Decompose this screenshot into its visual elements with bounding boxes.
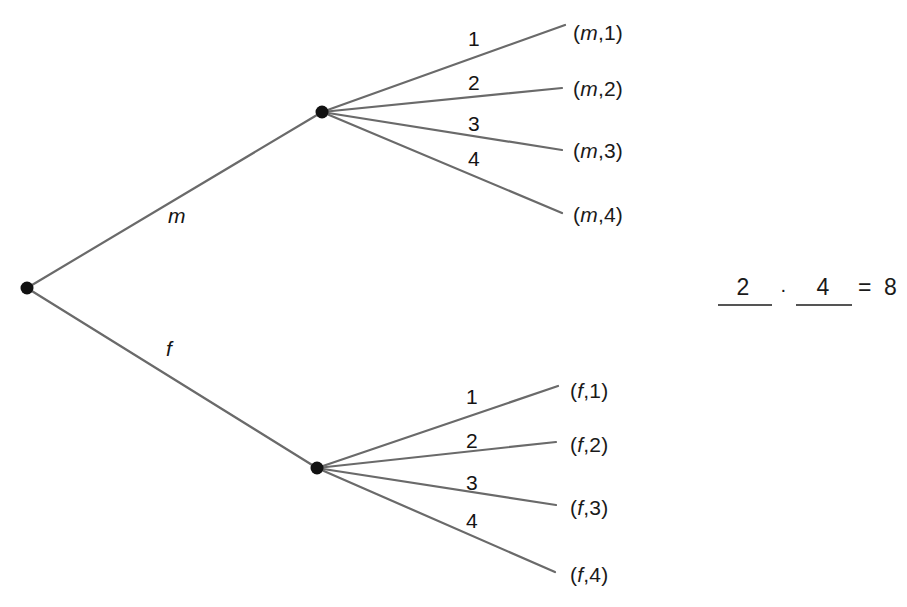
branch-label-m: m — [168, 205, 186, 226]
equation-factor-1: 2 — [720, 274, 766, 301]
root-node — [21, 282, 34, 295]
branch-label-m-4: 4 — [468, 148, 480, 169]
leaf-label-f1: (f,1) — [570, 380, 608, 401]
node-m — [316, 106, 329, 119]
multiplication-dot-icon: · — [780, 278, 787, 301]
node-f — [311, 462, 324, 475]
equation-factor-2: 4 — [800, 274, 846, 301]
leaf-label-m1: (m,1) — [573, 22, 623, 43]
leaf-label-m4: (m,4) — [573, 204, 623, 225]
branch-label-f: f — [166, 338, 172, 359]
branch-label-m-2: 2 — [468, 72, 480, 93]
edge-root-to-f — [27, 288, 317, 468]
edge-f-to-f3 — [317, 468, 556, 505]
leaf-label-f2: (f,2) — [570, 434, 608, 455]
branch-label-m-1: 1 — [468, 28, 480, 49]
equation-blank-rule-2 — [796, 304, 852, 306]
equation-equals-sign: = — [858, 274, 871, 301]
leaf-label-f3: (f,3) — [570, 497, 608, 518]
branch-label-f-4: 4 — [466, 510, 478, 531]
equation-result: 8 — [884, 274, 897, 301]
equation-blank-rule-1 — [718, 304, 772, 306]
tree-diagram-canvas: m f 1 2 3 4 (m,1) (m,2) (m,3) (m,4) 1 2 … — [0, 0, 907, 607]
counting-equation: 2 · 4 = 8 — [718, 272, 898, 318]
branch-label-m-3: 3 — [468, 113, 480, 134]
leaf-label-m3: (m,3) — [573, 140, 623, 161]
leaf-label-m2: (m,2) — [573, 78, 623, 99]
edge-root-to-m — [27, 112, 322, 288]
branch-label-f-2: 2 — [466, 430, 478, 451]
leaf-label-f4: (f,4) — [570, 564, 608, 585]
edge-f-to-f4 — [317, 468, 555, 572]
branch-label-f-3: 3 — [466, 472, 478, 493]
edge-m-to-m3 — [322, 112, 562, 150]
edge-m-to-m4 — [322, 112, 562, 213]
branch-label-f-1: 1 — [466, 386, 478, 407]
